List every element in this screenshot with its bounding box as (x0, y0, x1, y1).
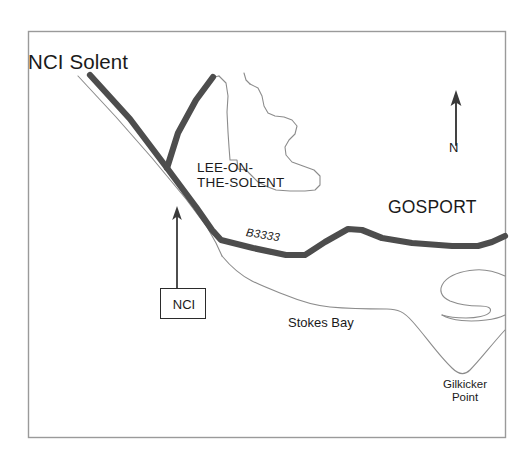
place-label-gilkicker-line1: Gilkicker (443, 378, 487, 390)
place-label-gosport: GOSPORT (388, 198, 477, 218)
nci-station-callout-label: NCI (161, 289, 207, 320)
place-label-gilkicker-line2: Point (452, 391, 478, 403)
map-title: NCI Solent (28, 51, 128, 74)
place-label-lee-line1: LEE-ON- (197, 160, 253, 175)
location-map: NCI Solent LEE-ON-THE-SOLENT GOSPORT B33… (0, 0, 531, 462)
place-label-lee-on-the-solent: LEE-ON-THE-SOLENT (197, 160, 285, 190)
nci-station-callout-box: NCI (160, 288, 206, 319)
place-label-gilkicker-point: GilkickerPoint (437, 378, 493, 404)
place-label-stokes-bay: Stokes Bay (288, 316, 354, 331)
compass-north-label: N (449, 141, 458, 156)
place-label-lee-line2: THE-SOLENT (197, 175, 285, 190)
